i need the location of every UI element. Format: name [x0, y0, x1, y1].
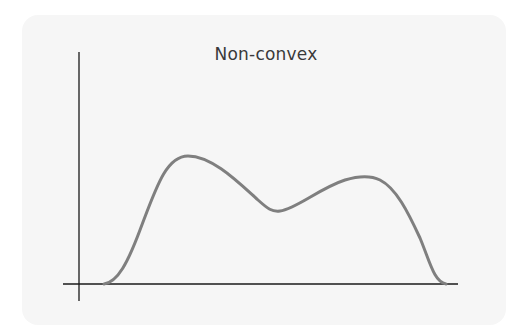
non-convex-curve: [104, 156, 446, 284]
plot-area: [0, 0, 532, 336]
